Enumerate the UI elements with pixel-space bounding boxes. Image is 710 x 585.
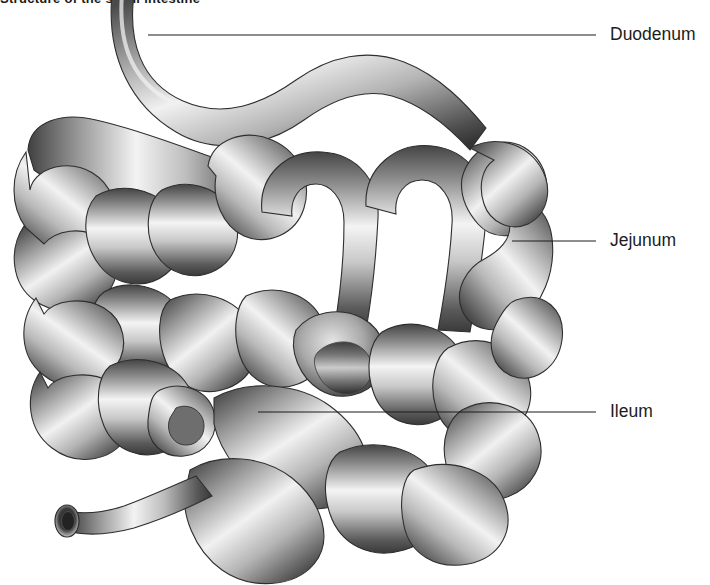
label-duodenum: Duodenum [610, 26, 696, 44]
ileum-loops [24, 297, 563, 583]
duodenum-segment [111, 0, 486, 150]
figure-page: Structure of the small intestine [0, 0, 710, 585]
label-jejunum: Jejunum [610, 232, 676, 250]
small-intestine-illustration [0, 0, 710, 585]
label-ileum: Ileum [610, 403, 653, 421]
cut-lumen [55, 505, 79, 537]
